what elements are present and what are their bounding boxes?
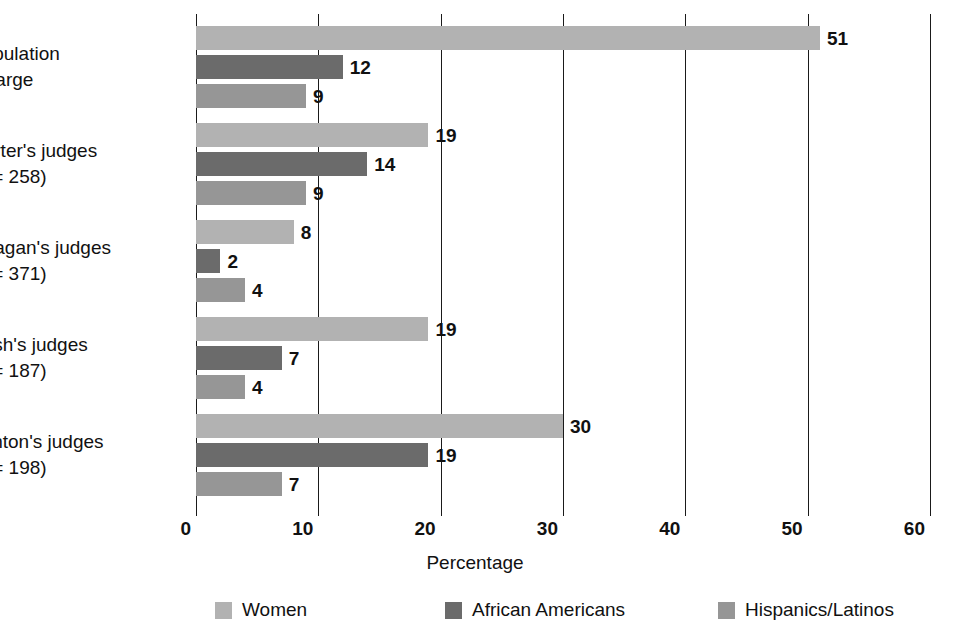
bar-value-label: 30 [570,417,591,436]
x-tick-30: 30 [537,518,563,540]
x-tick-0: 0 [180,518,196,540]
category-label: Bush's judges(n = 187) [0,332,190,384]
bar-row: 7 [196,346,930,370]
bar-value-label: 19 [435,126,456,145]
bar-group: 1974 [196,317,930,399]
legend-item-african-americans[interactable]: African Americans [445,597,625,623]
category-label: Reagan's judges(n = 371) [0,235,190,287]
bar-value-label: 2 [227,252,238,271]
bar-value-label: 7 [289,349,300,368]
bar[interactable] [196,26,820,50]
category-label: Clinton's judges(n = 198) [0,429,190,481]
bar-value-label: 19 [435,320,456,339]
legend-swatch-icon [718,602,735,619]
bar-row: 19 [196,123,930,147]
bar-value-label: 19 [435,446,456,465]
bar-value-label: 51 [827,29,848,48]
bar-row: 14 [196,152,930,176]
x-tick-40: 40 [659,518,685,540]
bar[interactable] [196,152,367,176]
legend-label: Women [242,599,307,621]
bar-group: 19149 [196,123,930,205]
bar-row: 4 [196,375,930,399]
x-axis-tick-labels: 0102030405060 [196,518,956,546]
bar[interactable] [196,472,282,496]
bar-group: 824 [196,220,930,302]
bar-value-label: 14 [374,155,395,174]
bar[interactable] [196,181,306,205]
category-label-line2: at large [0,67,190,93]
legend-swatch-icon [215,602,232,619]
bar[interactable] [196,249,220,273]
bar-value-label: 7 [289,475,300,494]
bar[interactable] [196,375,245,399]
bar-value-label: 12 [350,58,371,77]
category-label-line2: (n = 187) [0,358,190,384]
legend-label: Hispanics/Latinos [745,599,894,621]
x-axis-title: Percentage [0,552,968,574]
bar[interactable] [196,278,245,302]
bar-row: 9 [196,84,930,108]
bar-row: 8 [196,220,930,244]
x-tick-50: 50 [782,518,808,540]
legend-label: African Americans [472,599,625,621]
bar-row: 9 [196,181,930,205]
bar-group: 30197 [196,414,930,496]
category-label: Populationat large [0,41,190,93]
bar[interactable] [196,414,563,438]
category-label-line2: (n = 258) [0,164,190,190]
gridline-60 [930,14,931,516]
chart-legend: WomenAfrican AmericansHispanics/Latinos [0,597,968,627]
category-label-line1: Clinton's judges [0,429,190,455]
bar-row: 2 [196,249,930,273]
bar-row: 30 [196,414,930,438]
bar-value-label: 4 [252,281,263,300]
bar-row: 12 [196,55,930,79]
bar[interactable] [196,346,282,370]
bar-value-label: 4 [252,378,263,397]
bar[interactable] [196,123,428,147]
x-axis-title-text: Percentage [426,552,523,574]
legend-item-hispanics-latinos[interactable]: Hispanics/Latinos [718,597,894,623]
bar-row: 7 [196,472,930,496]
category-label-line2: (n = 371) [0,261,190,287]
category-label-line1: Reagan's judges [0,235,190,261]
category-label-line1: Bush's judges [0,332,190,358]
bar-chart-figure: 5112919149824197430197 Populationat larg… [0,0,968,644]
category-label-line1: Carter's judges [0,138,190,164]
bar-row: 19 [196,443,930,467]
bar-value-label: 9 [313,87,324,106]
bar[interactable] [196,443,428,467]
category-label: Carter's judges(n = 258) [0,138,190,190]
bar[interactable] [196,317,428,341]
bar[interactable] [196,55,343,79]
bar-group: 51129 [196,26,930,108]
x-tick-60: 60 [904,518,930,540]
bar-row: 19 [196,317,930,341]
bar-row: 4 [196,278,930,302]
bar-value-label: 9 [313,184,324,203]
bar-value-label: 8 [301,223,312,242]
bar[interactable] [196,220,294,244]
bar-row: 51 [196,26,930,50]
x-tick-20: 20 [415,518,441,540]
legend-swatch-icon [445,602,462,619]
plot-area: 5112919149824197430197 [196,14,930,516]
x-tick-10: 10 [292,518,318,540]
category-label-line2: (n = 198) [0,455,190,481]
category-label-line1: Population [0,41,190,67]
bar[interactable] [196,84,306,108]
legend-item-women[interactable]: Women [215,597,307,623]
